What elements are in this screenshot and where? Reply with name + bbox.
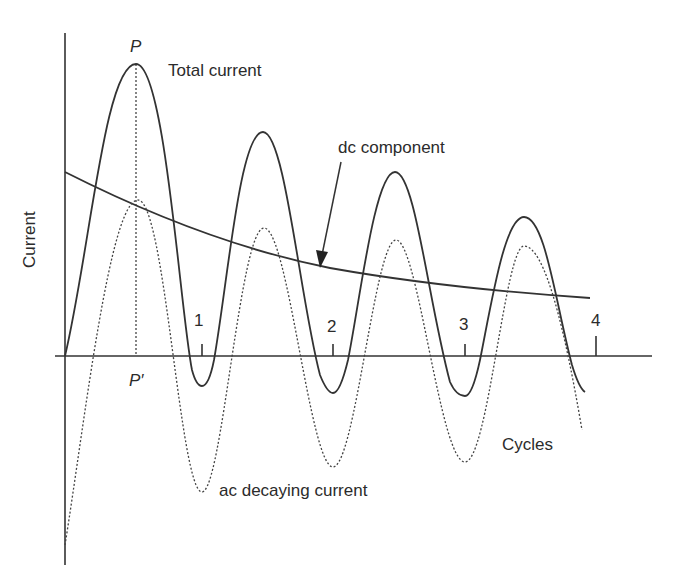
tick-label-4: 4 — [591, 312, 600, 329]
peak-point-label: P — [130, 38, 141, 55]
dc-component-curve — [65, 172, 590, 298]
total-current-label: Total current — [168, 62, 262, 79]
dc-arrow-shaft — [322, 162, 341, 255]
y-axis-label: Current — [20, 211, 40, 268]
x-axis-label: Cycles — [502, 436, 553, 453]
tick-label-3: 3 — [459, 316, 468, 333]
ac-decaying-current-label: ac decaying current — [219, 482, 367, 499]
peak-projection-label: P′ — [129, 372, 144, 389]
total-current-curve — [65, 64, 585, 396]
dc-component-label: dc component — [338, 139, 445, 156]
x-axis-ticks — [202, 336, 596, 356]
tick-label-2: 2 — [327, 318, 336, 335]
tick-label-1: 1 — [194, 312, 203, 329]
